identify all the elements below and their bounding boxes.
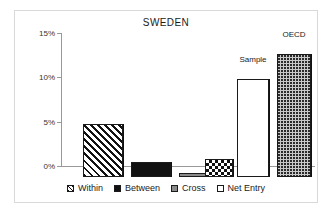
bar-annotation-sample: Sample xyxy=(239,55,266,64)
y-axis-tick: 0% xyxy=(61,166,62,167)
legend-label: Net Entry xyxy=(228,183,266,193)
y-axis-tick: 10% xyxy=(61,77,62,78)
legend-swatch-icon xyxy=(217,185,224,192)
chart-title: SWEDEN xyxy=(15,17,317,28)
y-axis-tick-label: 5% xyxy=(43,117,55,126)
chart-frame: SWEDEN 0%5%10%15% SampleOECD WithinBetwe… xyxy=(14,10,318,203)
y-axis-tick-mark xyxy=(57,122,61,123)
y-axis-tick: 5% xyxy=(61,122,62,123)
legend-label: Within xyxy=(78,183,103,193)
y-axis-tick-label: 15% xyxy=(39,29,55,38)
legend-item-between[interactable]: Between xyxy=(114,183,160,193)
legend-label: Cross xyxy=(182,183,206,193)
bar-oecd[interactable] xyxy=(277,54,311,177)
legend-swatch-icon xyxy=(67,185,74,192)
legend-swatch-icon xyxy=(114,185,121,192)
bar-annotation-oecd: OECD xyxy=(282,30,305,39)
plot-area: 0%5%10%15% SampleOECD xyxy=(61,33,315,177)
y-axis-tick-mark xyxy=(57,166,61,167)
y-axis-line xyxy=(61,33,62,166)
bar-between[interactable] xyxy=(131,162,171,177)
legend-item-cross[interactable]: Cross xyxy=(171,183,206,193)
bar-sample[interactable] xyxy=(237,79,269,177)
chart-legend: WithinBetweenCrossNet Entry xyxy=(15,183,317,193)
legend-label: Between xyxy=(125,183,160,193)
bar-net-entry[interactable] xyxy=(205,159,233,177)
y-axis-tick-mark xyxy=(57,33,61,34)
legend-item-within[interactable]: Within xyxy=(67,183,103,193)
y-axis-tick-mark xyxy=(57,77,61,78)
legend-item-net-entry[interactable]: Net Entry xyxy=(217,183,266,193)
y-axis-tick-label: 10% xyxy=(39,73,55,82)
bar-within[interactable] xyxy=(83,124,123,177)
y-axis-tick: 15% xyxy=(61,33,62,34)
legend-swatch-icon xyxy=(171,185,178,192)
y-axis-tick-label: 0% xyxy=(43,162,55,171)
